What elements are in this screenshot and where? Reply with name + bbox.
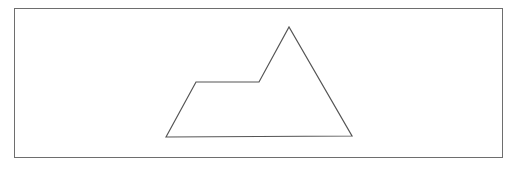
- diagram-canvas: [0, 0, 514, 170]
- mountain-polygon: [166, 27, 352, 137]
- frame-rectangle: [15, 9, 503, 158]
